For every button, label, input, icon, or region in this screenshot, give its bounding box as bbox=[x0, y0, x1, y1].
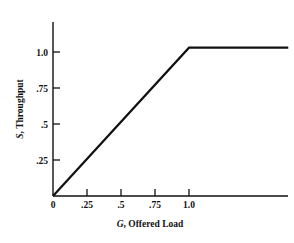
x-tick-marks bbox=[87, 189, 189, 196]
x-axis-title-rest: , Offered Load bbox=[124, 219, 184, 229]
data-line-ideal-throughput bbox=[53, 48, 288, 196]
y-tick-label: .75 bbox=[36, 84, 48, 94]
y-tick-label: 1.0 bbox=[36, 48, 48, 58]
y-axis-title-rest: , Throughput bbox=[15, 78, 25, 133]
y-tick-label: .5 bbox=[41, 120, 48, 130]
chart-figure: 1.0 .75 .5 .25 0 .25 .5 .75 1.0 G, Offer… bbox=[0, 0, 294, 243]
x-tick-label: .75 bbox=[149, 200, 161, 210]
x-tick-label: .5 bbox=[117, 200, 124, 210]
y-tick-labels: 1.0 .75 .5 .25 bbox=[36, 48, 48, 166]
y-tick-marks bbox=[53, 52, 60, 160]
throughput-chart: 1.0 .75 .5 .25 0 .25 .5 .75 1.0 G, Offer… bbox=[0, 0, 294, 243]
x-tick-label: 0 bbox=[51, 200, 56, 210]
x-tick-label: 1.0 bbox=[183, 200, 195, 210]
y-axis-title: S, Throughput bbox=[15, 78, 25, 138]
x-axis-title: G, Offered Load bbox=[117, 219, 184, 229]
x-tick-labels: 0 .25 .5 .75 1.0 bbox=[51, 200, 196, 210]
x-tick-label: .25 bbox=[81, 200, 93, 210]
y-tick-label: .25 bbox=[36, 156, 48, 166]
